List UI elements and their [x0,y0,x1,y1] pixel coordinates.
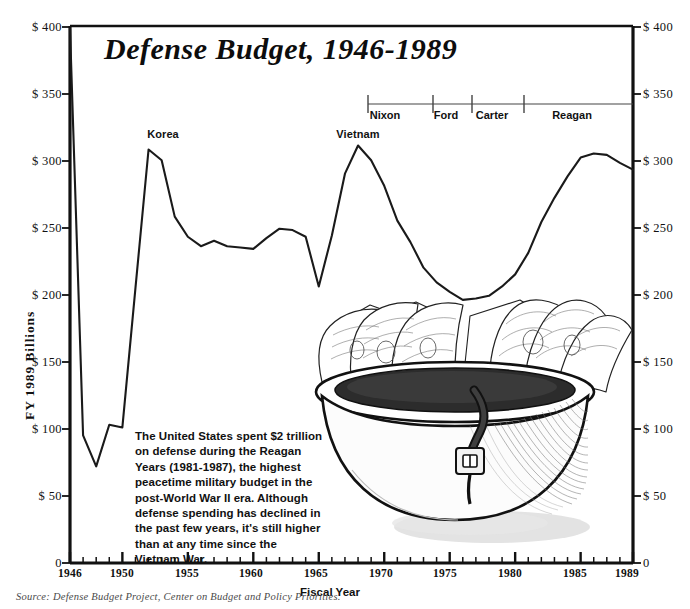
x-ticks [70,552,633,563]
plot-canvas [0,0,690,609]
chart-figure: Defense Budget, 1946-1989 FY 1989 Billio… [0,0,690,609]
presidential-timeline [368,95,633,113]
helmet-full-of-money-illustration [316,300,632,543]
